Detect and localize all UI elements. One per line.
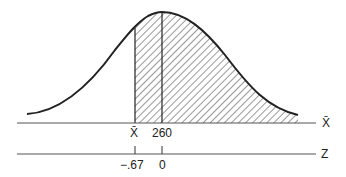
mean-tick-label: 260 bbox=[152, 126, 172, 140]
z-axis-label: Z bbox=[321, 147, 328, 161]
z-tick-label-neg: −.67 bbox=[120, 158, 144, 172]
z-tick-label-zero: 0 bbox=[159, 158, 166, 172]
normal-curve-diagram: X̄ X̄ 260 Z −.67 0 bbox=[0, 0, 346, 177]
xbar-tick-label: X̄ bbox=[130, 126, 138, 140]
xbar-axis-label: X̄ bbox=[322, 116, 330, 130]
